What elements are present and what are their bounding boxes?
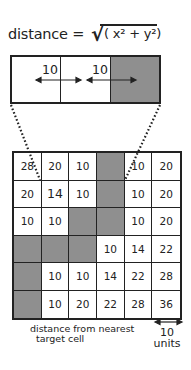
grid-caption: distance from nearest target cell bbox=[30, 324, 134, 344]
arrow-icon bbox=[36, 78, 136, 83]
zoom-connector-lines bbox=[11, 105, 160, 180]
scale-legend: 10 units bbox=[150, 320, 184, 349]
overlay-lines bbox=[0, 0, 191, 370]
scale-unit: units bbox=[150, 338, 184, 349]
caption-line-2: target cell bbox=[30, 334, 134, 344]
